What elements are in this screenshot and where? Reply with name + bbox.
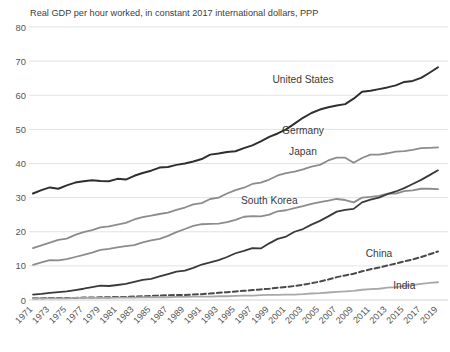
x-tick-label-2007: 2007: [317, 304, 338, 325]
x-tick-label-1993: 1993: [199, 304, 220, 325]
x-tick-label-1999: 1999: [249, 304, 270, 325]
y-tick-label-70: 70: [16, 56, 26, 67]
series-lines-group: [33, 67, 438, 298]
x-tick-label-1975: 1975: [47, 304, 68, 325]
y-tick-label-0: 0: [21, 295, 26, 306]
series-label-china: China: [366, 248, 393, 259]
x-tick-label-2005: 2005: [300, 304, 321, 325]
x-axis-labels-group: 1971197319751977197919811983198519871989…: [13, 304, 439, 325]
series-line-india: [33, 282, 438, 298]
series-label-germany: Germany: [282, 125, 325, 136]
chart-title: Real GDP per hour worked, in constant 20…: [30, 8, 318, 18]
x-tick-label-1991: 1991: [182, 304, 203, 325]
x-tick-label-1979: 1979: [81, 304, 102, 325]
x-tick-label-1983: 1983: [114, 304, 135, 325]
y-tick-label-10: 10: [16, 260, 26, 271]
x-tick-label-2001: 2001: [266, 304, 287, 325]
y-tick-label-60: 60: [16, 90, 26, 101]
series-label-united-states: United States: [272, 74, 333, 85]
x-tick-label-2003: 2003: [283, 304, 304, 325]
x-tick-label-2009: 2009: [334, 304, 355, 325]
series-line-united-states: [33, 67, 438, 193]
x-tick-label-1997: 1997: [233, 304, 254, 325]
x-tick-label-1981: 1981: [98, 304, 119, 325]
y-axis-labels-group: 01020304050607080: [16, 22, 26, 306]
y-tick-label-30: 30: [16, 192, 26, 203]
x-tick-label-1989: 1989: [165, 304, 186, 325]
y-tick-label-80: 80: [16, 22, 26, 33]
y-tick-label-20: 20: [16, 226, 26, 237]
x-tick-label-2019: 2019: [418, 304, 439, 325]
x-tick-label-1995: 1995: [216, 304, 237, 325]
series-label-india: India: [393, 280, 415, 291]
y-tick-label-50: 50: [16, 124, 26, 135]
x-tick-label-2013: 2013: [368, 304, 389, 325]
x-tick-label-2017: 2017: [401, 304, 422, 325]
x-tick-label-1977: 1977: [64, 304, 85, 325]
series-label-south-korea: South Korea: [241, 195, 298, 206]
series-label-japan: Japan: [289, 146, 317, 157]
x-tick-label-1987: 1987: [148, 304, 169, 325]
series-line-south-korea: [33, 170, 438, 294]
x-tick-label-2011: 2011: [351, 304, 372, 325]
gdp-per-hour-chart: Real GDP per hour worked, in constant 20…: [0, 0, 450, 352]
x-tick-label-1971: 1971: [13, 304, 34, 325]
x-tick-label-1973: 1973: [30, 304, 51, 325]
x-tick-label-2015: 2015: [384, 304, 405, 325]
chart-svg: Real GDP per hour worked, in constant 20…: [0, 0, 450, 352]
y-tick-label-40: 40: [16, 158, 26, 169]
x-tick-label-1985: 1985: [131, 304, 152, 325]
